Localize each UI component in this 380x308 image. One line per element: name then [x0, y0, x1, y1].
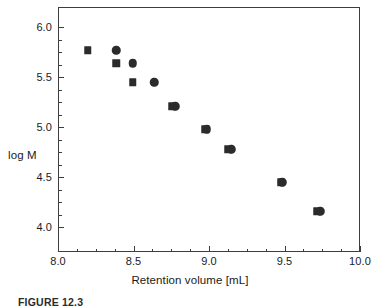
x-tick-10.000	[360, 246, 361, 252]
y-tick-4.000	[58, 227, 64, 228]
y-tick-5.375	[58, 90, 62, 91]
y-tick-5.750	[58, 52, 62, 53]
x-tick-label-0: 8.0	[50, 255, 66, 267]
data-point-circle-4	[203, 125, 212, 134]
y-tick-4.750	[58, 152, 62, 153]
data-point-circle-1	[129, 59, 138, 68]
data-point-square-0	[84, 46, 92, 54]
y-tick-5.500	[58, 77, 64, 78]
x-tick-8.875	[190, 249, 191, 253]
x-tick-8.750	[171, 249, 172, 253]
x-tick-label-1: 8.5	[126, 255, 142, 267]
y-axis-title: log M	[8, 149, 37, 161]
plot-frame	[58, 7, 360, 252]
x-tick-label-4: 10.0	[349, 255, 371, 267]
x-tick-8.250	[96, 249, 97, 253]
data-point-circle-6	[278, 178, 287, 187]
y-tick-4.375	[58, 190, 62, 191]
x-axis-title: Retention volume [mL]	[0, 274, 380, 286]
x-tick-8.625	[152, 249, 153, 253]
y-tick-4.875	[58, 140, 62, 141]
y-tick-4.625	[58, 165, 62, 166]
x-tick-9.875	[341, 249, 342, 253]
x-tick-label-2: 9.0	[201, 255, 217, 267]
data-point-circle-0	[112, 46, 121, 55]
y-tick-6.000	[58, 27, 64, 28]
data-point-square-1	[113, 59, 121, 67]
x-tick-8.375	[115, 249, 116, 253]
x-tick-9.250	[247, 249, 248, 253]
y-tick-4.250	[58, 202, 62, 203]
plot-area	[59, 8, 359, 251]
y-tick-5.625	[58, 65, 62, 66]
x-tick-8.000	[58, 246, 59, 252]
x-tick-9.000	[209, 246, 210, 252]
y-tick-5.125	[58, 115, 62, 116]
data-point-circle-7	[316, 207, 325, 216]
x-tick-9.750	[322, 249, 323, 253]
y-tick-4.500	[58, 177, 64, 178]
x-tick-label-3: 9.5	[277, 255, 293, 267]
x-tick-9.125	[228, 249, 229, 253]
x-tick-8.125	[77, 249, 78, 253]
data-point-circle-3	[171, 102, 180, 111]
y-tick-label-2: 5.0	[36, 121, 52, 133]
data-point-circle-2	[150, 78, 159, 87]
y-tick-label-1: 5.5	[36, 71, 52, 83]
y-tick-label-3: 4.5	[36, 171, 52, 183]
y-tick-label-0: 6.0	[36, 21, 52, 33]
data-point-square-2	[129, 78, 137, 86]
y-tick-5.000	[58, 127, 64, 128]
x-tick-8.500	[134, 246, 135, 252]
y-tick-5.875	[58, 40, 62, 41]
data-point-circle-5	[227, 145, 236, 154]
figure-caption: FIGURE 12.3	[18, 296, 83, 308]
x-tick-9.625	[303, 249, 304, 253]
x-tick-9.500	[285, 246, 286, 252]
x-tick-9.375	[266, 249, 267, 253]
y-tick-5.250	[58, 102, 62, 103]
y-tick-4.125	[58, 215, 62, 216]
y-tick-label-4: 4.0	[36, 221, 52, 233]
